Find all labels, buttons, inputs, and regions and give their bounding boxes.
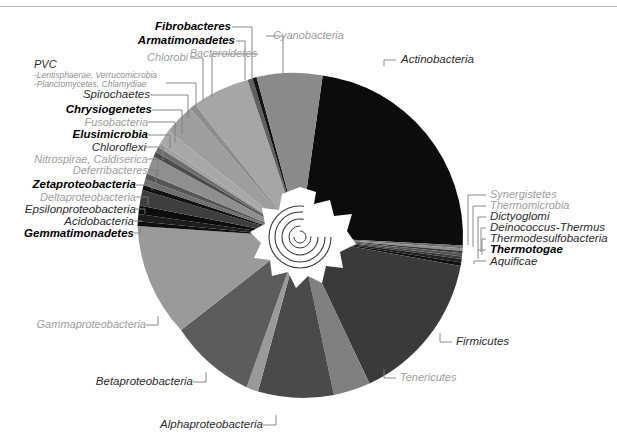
label-chloroflexi: Chloroflexi — [92, 141, 146, 154]
label-betaproteobacteria: Betaproteobacteria — [96, 375, 193, 388]
label-bacteroidetes: Bacteroidetes — [190, 47, 257, 59]
label-fibrobacteres: Fibrobacteres — [155, 20, 231, 33]
leader-actinobacteria — [384, 60, 396, 66]
leader-firmicutes — [440, 333, 452, 342]
label-deferribacteres: Deferribacteres — [73, 164, 148, 176]
label-thermotogae: Thermotogae — [490, 243, 563, 256]
leader-alphaproteobacteria — [263, 415, 276, 425]
label-gemmatimonadetes: Gemmatimonadetes — [24, 227, 134, 240]
leader-chlorobi — [190, 58, 203, 101]
label-fusobacteria: Fusobacteria — [84, 116, 148, 128]
label-elusimicrobia: Elusimicrobia — [73, 128, 148, 141]
leader-aquificae — [474, 261, 486, 264]
label-actinobacteria: Actinobacteria — [401, 53, 474, 66]
leader-betaproteobacteria — [193, 372, 206, 382]
label-armatimonadetes: Armatimonadetes — [138, 34, 235, 47]
label-chlorobi: Chlorobi — [147, 51, 188, 63]
label-chrysiogenetes: Chrysiogenetes — [66, 103, 152, 116]
label-acidobacteria: Acidobacteria — [64, 215, 134, 228]
leader-synergistetes — [468, 195, 486, 245]
label-deltaproteobacteria: Deltaproteobacteria — [40, 191, 136, 203]
leader-thermodesulfobacteria — [482, 239, 486, 255]
leader-pvc — [166, 83, 196, 108]
label-gammaproteobacteria: Gammaproteobacteria — [37, 318, 146, 330]
label-pvc-group: PVC -Lentisphaerae, Verrucomicrobia -Pla… — [34, 58, 164, 90]
label-alphaproteobacteria: Alphaproteobacteria — [160, 418, 263, 431]
label-aquificae: Aquificae — [490, 255, 537, 268]
label-firmicutes: Firmicutes — [456, 335, 509, 348]
label-spirochaetes: Spirochaetes — [83, 88, 150, 101]
label-tenericutes: Tenericutes — [400, 371, 456, 383]
leader-thermomicrobia — [473, 206, 486, 247]
leader-cyanobacteria — [266, 36, 283, 73]
leader-gammaproteobacteria — [146, 316, 158, 325]
label-zetaproteobacteria: Zetaproteobacteria — [32, 178, 136, 191]
label-epsilonproteobacteria: Epsilonproteobacteria — [25, 203, 136, 216]
label-pvc: PVC — [34, 58, 164, 71]
label-cyanobacteria: Cyanobacteria — [273, 29, 344, 41]
